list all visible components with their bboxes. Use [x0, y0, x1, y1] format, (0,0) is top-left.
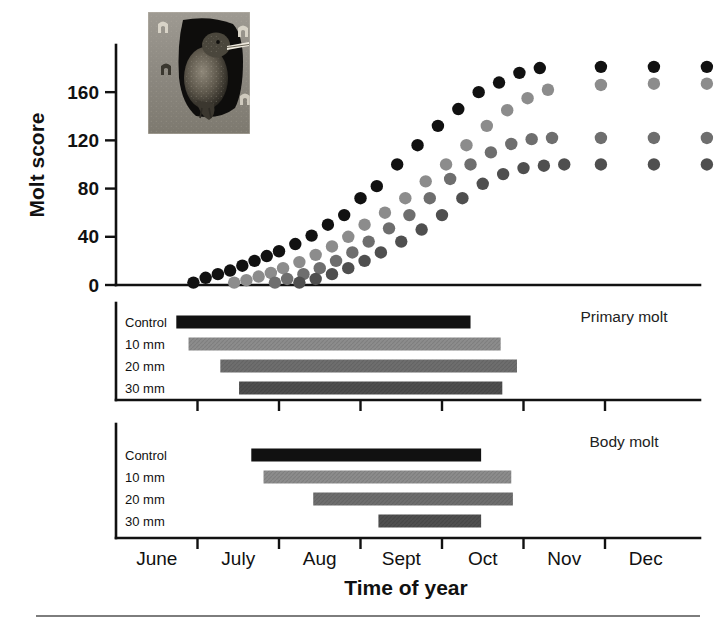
scatter-point: [513, 67, 525, 79]
scatter-point: [379, 206, 391, 218]
scatter-point: [546, 132, 558, 144]
scatter-y-ticks: 04080120160: [67, 82, 116, 296]
bar-row-label: 20 mm: [125, 492, 165, 507]
scatter-point: [525, 133, 537, 145]
scatter-point: [648, 158, 660, 170]
x-axis-month-label: Oct: [468, 548, 498, 569]
scatter-point: [558, 158, 570, 170]
scatter-point: [309, 273, 321, 285]
scatter-point: [314, 262, 326, 274]
scatter-point: [305, 229, 317, 241]
x-axis-month-label: Sept: [382, 548, 422, 569]
scatter-point: [497, 168, 509, 180]
primary-molt-bars: [176, 316, 517, 395]
scatter-point: [326, 268, 338, 280]
scatter-point: [281, 273, 293, 285]
bar-row-label: Control: [125, 315, 167, 330]
x-axis-month-label: Aug: [303, 548, 337, 569]
scatter-y-tick-label: 0: [88, 275, 99, 296]
scatter-point: [521, 92, 533, 104]
scatter-point: [481, 120, 493, 132]
figure-canvas: 04080120160 Molt score Control10 mm20 mm…: [0, 0, 726, 628]
scatter-point: [403, 209, 415, 221]
x-axis-title: Time of year: [344, 576, 467, 599]
scatter-point: [542, 84, 554, 96]
x-axis-month-label: Nov: [547, 548, 581, 569]
bar-row-label: 30 mm: [125, 381, 165, 396]
bird-eye: [216, 40, 220, 44]
scatter-point: [595, 158, 607, 170]
scatter-point: [538, 159, 550, 171]
scatter-point: [701, 132, 713, 144]
scatter-point: [187, 276, 199, 288]
scatter-y-tick-label: 40: [78, 226, 99, 247]
x-axis-month-label: June: [136, 548, 177, 569]
scatter-point: [322, 219, 334, 231]
scatter-point: [199, 272, 211, 284]
scatter-point: [228, 276, 240, 288]
scatter-point: [346, 246, 358, 258]
scatter-point: [277, 262, 289, 274]
body-molt-row-labels: Control10 mm20 mm30 mm: [125, 448, 167, 529]
scatter-point: [375, 246, 387, 258]
primary-molt-panel: Control10 mm20 mm30 mm Primary molt: [116, 303, 700, 411]
scatter-point: [472, 86, 484, 98]
molt-duration-bar: [220, 360, 517, 373]
scatter-data-points: [187, 61, 713, 289]
bar-row-label: 10 mm: [125, 337, 165, 352]
scatter-point: [212, 268, 224, 280]
molt-duration-bar: [239, 382, 502, 395]
molt-duration-bar: [176, 316, 470, 329]
scatter-point: [452, 103, 464, 115]
scatter-point: [362, 235, 374, 247]
scatter-point: [456, 192, 468, 204]
scatter-point: [358, 255, 370, 267]
scatter-point: [358, 219, 370, 231]
scatter-point: [460, 139, 472, 151]
bar-row-label: 10 mm: [125, 470, 165, 485]
y-axis-title: Molt score: [25, 112, 48, 217]
scatter-point: [648, 78, 660, 90]
scatter-point: [371, 180, 383, 192]
scatter-point: [648, 61, 660, 73]
scatter-point: [399, 192, 411, 204]
scatter-point: [395, 235, 407, 247]
scatter-point: [326, 240, 338, 252]
scatter-point: [411, 139, 423, 151]
scatter-point: [248, 255, 260, 267]
scatter-point: [354, 192, 366, 204]
primary-panel-ticks: [198, 400, 606, 411]
molt-duration-bar: [313, 493, 513, 506]
scatter-point: [330, 255, 342, 267]
scatter-point: [391, 158, 403, 170]
molt-duration-bar: [264, 471, 512, 484]
scatter-point: [701, 158, 713, 170]
scatter-point: [252, 270, 264, 282]
scatter-point: [485, 146, 497, 158]
bar-row-label: 30 mm: [125, 514, 165, 529]
molt-duration-bar: [189, 338, 501, 351]
primary-molt-row-labels: Control10 mm20 mm30 mm: [125, 315, 167, 396]
scatter-point: [236, 260, 248, 272]
scatter-point: [420, 175, 432, 187]
scatter-point: [261, 250, 273, 262]
scatter-point: [501, 104, 513, 116]
scatter-point: [595, 79, 607, 91]
scatter-point: [595, 132, 607, 144]
scatter-point: [342, 231, 354, 243]
scatter-point: [444, 173, 456, 185]
molt-duration-bar: [251, 449, 481, 462]
body-molt-title: Body molt: [590, 433, 660, 450]
starling-at-nestbox-photo: [148, 12, 250, 134]
scatter-point: [293, 276, 305, 288]
scatter-point: [493, 76, 505, 88]
scatter-point: [415, 223, 427, 235]
scatter-point: [273, 245, 285, 257]
x-axis-tick-labels: JuneJulyAugSeptOctNovDec: [136, 548, 663, 569]
scatter-point: [309, 249, 321, 261]
scatter-y-tick-label: 120: [67, 130, 99, 151]
scatter-y-tick-label: 160: [67, 82, 99, 103]
scatter-point: [517, 162, 529, 174]
scatter-point: [436, 209, 448, 221]
scatter-point: [701, 61, 713, 73]
